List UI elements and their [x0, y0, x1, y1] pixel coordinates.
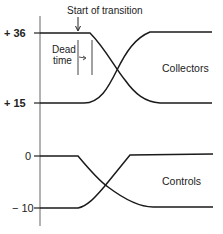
transition-diagram: + 36 + 15 0 − 10 Start of transition Dea…: [0, 0, 223, 234]
label-zero: 0: [25, 150, 31, 162]
controls-label: Controls: [162, 175, 201, 187]
label-plus-15: + 15: [4, 97, 26, 109]
collectors-label: Collectors: [162, 62, 209, 74]
dead-time-label-line1: Dead: [52, 44, 76, 55]
label-minus-10: − 10: [12, 202, 34, 214]
dead-time-label-line2: time: [53, 55, 72, 66]
label-plus-36: + 36: [4, 27, 26, 39]
start-of-transition-label: Start of transition: [67, 5, 143, 16]
